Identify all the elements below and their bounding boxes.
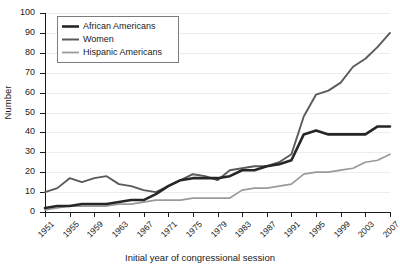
y-axis-title: Number: [2, 68, 13, 138]
x-tick-label: 1999: [326, 219, 351, 244]
x-tick-label: 1971: [154, 219, 179, 244]
y-tick: [40, 93, 45, 94]
y-tick-label: 10: [5, 187, 35, 196]
chart-legend: African Americans Women Hispanic America…: [57, 16, 179, 63]
x-tick: [218, 212, 219, 217]
x-tick-label: 1987: [252, 219, 277, 244]
x-tick: [45, 212, 46, 217]
x-tick-label: 2003: [351, 219, 376, 244]
y-axis-line: [45, 13, 46, 213]
gridline: [45, 73, 390, 74]
gridline: [45, 172, 390, 173]
x-tick: [168, 212, 169, 217]
x-tick: [70, 212, 71, 217]
y-tick: [40, 53, 45, 54]
y-tick-label: 20: [5, 167, 35, 176]
y-tick: [40, 152, 45, 153]
legend-item-hispanic-americans: Hispanic Americans: [62, 46, 174, 59]
legend-label-women: Women: [83, 34, 114, 45]
legend-swatch-african-americans: [62, 21, 79, 32]
x-axis-title: Initial year of congressional session: [0, 252, 400, 263]
legend-swatch-women: [62, 34, 79, 45]
legend-swatch-hispanic-americans: [62, 47, 79, 58]
y-tick: [40, 73, 45, 74]
y-tick-label: 100: [5, 8, 35, 17]
y-tick-label: 0: [5, 207, 35, 216]
legend-item-women: Women: [62, 33, 174, 46]
gridline: [45, 13, 390, 14]
x-tick-label: 1995: [302, 219, 327, 244]
legend-label-hispanic-americans: Hispanic Americans: [83, 47, 162, 58]
x-tick: [390, 212, 391, 217]
x-tick: [316, 212, 317, 217]
x-tick: [341, 212, 342, 217]
x-tick: [144, 212, 145, 217]
x-tick-label: 1991: [277, 219, 302, 244]
gridline: [45, 132, 390, 133]
x-tick: [119, 212, 120, 217]
x-tick-label: 1963: [105, 219, 130, 244]
x-tick: [94, 212, 95, 217]
y-tick-label: 90: [5, 28, 35, 37]
x-tick: [193, 212, 194, 217]
y-tick: [40, 13, 45, 14]
y-tick: [40, 113, 45, 114]
x-tick-label: 2007: [376, 219, 400, 244]
y-tick-label: 30: [5, 147, 35, 156]
x-tick-label: 1983: [228, 219, 253, 244]
y-tick-label: 80: [5, 48, 35, 57]
x-tick-label: 1955: [55, 219, 80, 244]
x-tick-label: 1979: [203, 219, 228, 244]
y-tick: [40, 132, 45, 133]
line-chart: 0102030405060708090100 Number 1951195519…: [0, 0, 400, 275]
y-tick: [40, 172, 45, 173]
legend-label-african-americans: African Americans: [83, 21, 156, 32]
gridline: [45, 113, 390, 114]
x-tick-label: 1967: [129, 219, 154, 244]
legend-item-african-americans: African Americans: [62, 20, 174, 33]
gridline: [45, 192, 390, 193]
y-tick: [40, 33, 45, 34]
x-tick: [242, 212, 243, 217]
gridline: [45, 93, 390, 94]
x-tick-label: 1975: [178, 219, 203, 244]
y-tick: [40, 192, 45, 193]
x-tick-label: 1959: [80, 219, 105, 244]
x-tick: [291, 212, 292, 217]
gridline: [45, 152, 390, 153]
x-tick: [267, 212, 268, 217]
x-tick: [365, 212, 366, 217]
x-tick-label: 1951: [31, 219, 56, 244]
